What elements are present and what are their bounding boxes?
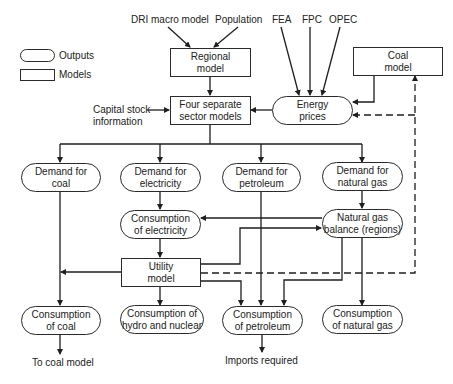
demand-gas-line1: Demand for <box>336 165 388 177</box>
arrow-balance-to-petroleum <box>284 237 342 305</box>
imports-required-label: Imports required <box>225 355 298 367</box>
regional-model-line1: Regional <box>191 51 230 63</box>
sector-models-box: Four separatesector models <box>170 96 251 125</box>
arrow-utility-to-petroleum <box>201 281 241 305</box>
demand-electricity-line2: electricity <box>134 178 186 190</box>
consumption-coal-line1: Consumption <box>32 309 91 321</box>
utility-model-line2: model <box>147 273 174 285</box>
energy-prices-line1: Energy <box>297 99 329 111</box>
utility-model-box: Utilitymodel <box>121 258 201 287</box>
demand-coal-oval: Demand forcoal <box>21 163 101 192</box>
consumption-gas-line2: of natural gas <box>332 320 393 332</box>
consumption-gas-line1: Consumption <box>332 308 393 320</box>
arrow-opec-to-prices <box>322 27 340 95</box>
arrow-dri-to-regional <box>168 27 190 47</box>
gas-balance-line2: balance (regions) <box>324 224 401 236</box>
demand-natural-gas-oval: Demand fornatural gas <box>322 162 403 191</box>
arrow-population-to-regional <box>214 27 238 47</box>
legend-outputs-label: Outputs <box>59 50 94 62</box>
capital-stock-line2: information <box>93 116 150 128</box>
input-fea: FEA <box>272 14 291 26</box>
arrow-fea-to-prices <box>281 27 299 95</box>
input-fpc: FPC <box>302 14 322 26</box>
sector-models-line1: Four separate <box>179 99 241 111</box>
to-coal-model-label: To coal model <box>32 357 94 369</box>
coal-model-line1: Coal <box>384 50 411 62</box>
demand-coal-line1: Demand for <box>35 166 87 178</box>
input-population: Population <box>215 14 262 26</box>
arrow-coal-to-prices <box>353 75 374 102</box>
demand-gas-line2: natural gas <box>336 177 388 189</box>
consumption-coal-line2: of coal <box>32 321 91 333</box>
legend-output-shape <box>20 49 55 62</box>
consumption-hydro-nuclear-oval: Consumption ofhydro and nuclear <box>120 305 204 334</box>
consumption-hydro-line1: Consumption of <box>122 308 202 320</box>
consumption-hydro-line2: hydro and nuclear <box>122 320 202 332</box>
demand-petroleum-oval: Demand forpetroleum <box>222 163 301 192</box>
consumption-natural-gas-oval: Consumptionof natural gas <box>322 305 403 334</box>
natural-gas-balance-oval: Natural gasbalance (regions) <box>322 209 403 238</box>
input-opec: OPEC <box>329 14 357 26</box>
gas-balance-line1: Natural gas <box>324 212 401 224</box>
legend-model-shape <box>20 69 55 81</box>
demand-electricity-oval: Demand forelectricity <box>120 163 201 192</box>
demand-coal-line2: coal <box>35 178 87 190</box>
consumption-electricity-oval: Consumptionof electricity <box>120 210 201 239</box>
capital-stock-line1: Capital stock <box>93 104 150 116</box>
consumption-petroleum-line1: Consumption <box>233 309 292 321</box>
consumption-coal-oval: Consumptionof coal <box>21 306 101 335</box>
consumption-petroleum-line2: of petroleum <box>233 321 292 333</box>
demand-electricity-line1: Demand for <box>134 166 186 178</box>
consumption-petroleum-oval: Consumptionof petroleum <box>222 306 303 335</box>
utility-model-line1: Utility <box>147 261 174 273</box>
sector-models-line2: sector models <box>179 111 241 123</box>
coal-model-line2: model <box>384 62 411 74</box>
demand-petroleum-line1: Demand for <box>235 166 287 178</box>
energy-prices-oval: Energyprices <box>272 96 353 125</box>
energy-prices-line2: prices <box>297 111 329 123</box>
regional-model-line2: model <box>191 63 230 75</box>
demand-petroleum-line2: petroleum <box>235 178 287 190</box>
legend-models-label: Models <box>59 69 91 81</box>
coal-model-box: Coalmodel <box>353 47 443 76</box>
regional-model-box: Regionalmodel <box>170 48 251 77</box>
input-capital-stock: Capital stock information <box>93 104 150 128</box>
consumption-electricity-line2: of electricity <box>131 225 190 237</box>
consumption-electricity-line1: Consumption <box>131 213 190 225</box>
input-dri-macro-model: DRI macro model <box>131 14 209 26</box>
